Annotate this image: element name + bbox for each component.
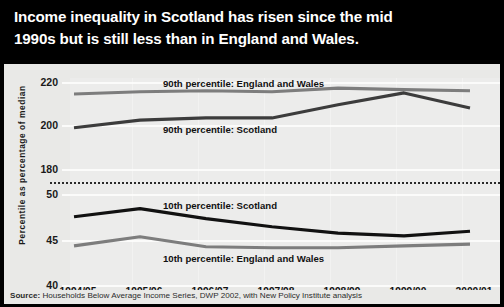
chart-root: Income inequality in Scotland has risen … (0, 0, 504, 307)
line-10th-percentile-england-and-wales (74, 237, 470, 248)
source-strip: Source: Households Below Average Income … (4, 290, 500, 304)
source-body: Households Below Average Income Series, … (40, 291, 362, 300)
series-lines (4, 64, 500, 303)
series-label-90th-scotland: 90th percentile: Scotland (163, 124, 277, 135)
title-line-1: Income inequality in Scotland has risen … (14, 6, 492, 28)
series-label-10th-england-wales: 10th percentile: England and Wales (163, 253, 324, 264)
title-banner: Income inequality in Scotland has risen … (0, 0, 504, 64)
series-label-90th-england-wales: 90th percentile: England and Wales (163, 78, 324, 89)
source-prefix: Source: (10, 291, 40, 300)
series-label-10th-scotland: 10th percentile: Scotland (163, 200, 277, 211)
page-title: Income inequality in Scotland has risen … (14, 6, 492, 51)
chart-panel: Percentile as percentage of median 220 2… (4, 64, 500, 303)
source-note: Source: Households Below Average Income … (10, 291, 362, 300)
title-line-2: 1990s but is still less than in England … (14, 28, 492, 50)
line-90th-percentile-scotland (74, 93, 470, 128)
line-10th-percentile-scotland (74, 209, 470, 236)
